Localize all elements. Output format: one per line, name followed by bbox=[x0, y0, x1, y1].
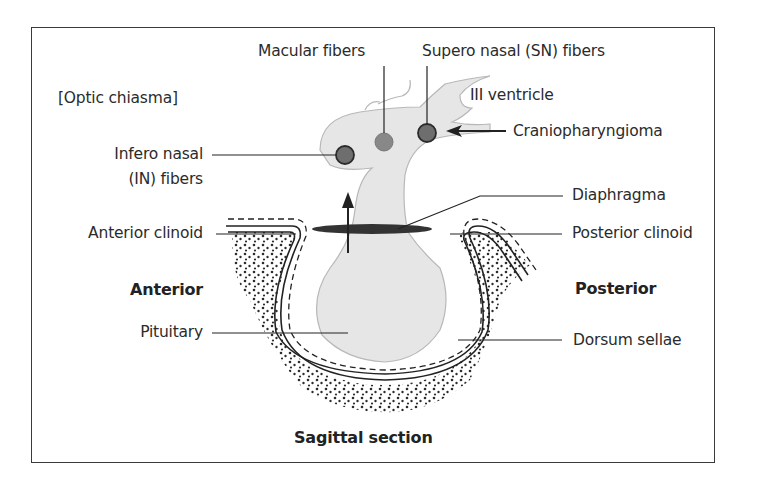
label-infero-nasal-line2: (IN) fibers bbox=[60, 172, 203, 188]
leader-diaphragma bbox=[398, 196, 563, 229]
diaphragma-shape bbox=[312, 224, 432, 234]
label-posterior: Posterior bbox=[575, 281, 656, 297]
label-anterior-clinoid: Anterior clinoid bbox=[40, 226, 203, 242]
label-infero-nasal-line1: Infero nasal bbox=[60, 147, 203, 163]
label-diaphragma: Diaphragma bbox=[572, 188, 666, 204]
label-craniopharyngioma: Craniopharyngioma bbox=[513, 124, 663, 140]
infero-nasal-fiber-dot bbox=[336, 146, 354, 164]
label-macular-fibers: Macular fibers bbox=[258, 44, 365, 60]
label-iii-ventricle: III ventricle bbox=[470, 88, 554, 104]
label-anterior: Anterior bbox=[60, 282, 203, 298]
optic-chiasm-shape bbox=[317, 76, 490, 362]
macular-fiber-dot bbox=[375, 133, 393, 151]
label-pituitary: Pituitary bbox=[60, 325, 203, 341]
label-posterior-clinoid: Posterior clinoid bbox=[572, 226, 693, 242]
section-label: [Optic chiasma] bbox=[58, 91, 178, 107]
supero-nasal-fiber-dot bbox=[418, 124, 436, 142]
label-dorsum-sellae: Dorsum sellae bbox=[573, 333, 681, 349]
figure-caption: Sagittal section bbox=[294, 430, 433, 446]
label-supero-nasal-fibers: Supero nasal (SN) fibers bbox=[422, 44, 605, 60]
